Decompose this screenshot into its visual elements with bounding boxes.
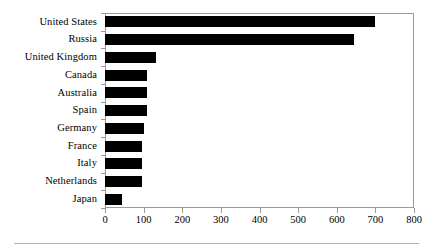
x-axis-tick bbox=[182, 208, 183, 213]
x-axis-tick-label: 500 bbox=[290, 214, 306, 227]
bar bbox=[105, 123, 144, 134]
y-axis-tick-label: Australia bbox=[58, 88, 97, 99]
y-axis-tick-row: United Kingdom bbox=[0, 48, 101, 66]
y-axis-tick-label: Canada bbox=[65, 70, 97, 81]
bar-slot bbox=[105, 48, 414, 66]
y-axis-tick-label: Netherlands bbox=[45, 176, 97, 187]
bar-chart-figure: United States Russia United Kingdom Cana… bbox=[0, 0, 433, 250]
bar bbox=[105, 87, 147, 98]
y-axis-tick-row: United States bbox=[0, 13, 101, 31]
y-axis-tick-label: Italy bbox=[77, 158, 97, 169]
y-axis-tick-label: Japan bbox=[73, 194, 97, 205]
x-axis-tick-label: 200 bbox=[174, 214, 190, 227]
bar bbox=[105, 141, 142, 152]
bar-slot bbox=[105, 137, 414, 155]
bar-slot bbox=[105, 13, 414, 31]
y-axis-tick-label: France bbox=[68, 141, 97, 152]
y-axis-tick-label: Spain bbox=[73, 105, 97, 116]
x-axis-tick-label: 300 bbox=[213, 214, 229, 227]
bar bbox=[105, 176, 142, 187]
x-axis-tick bbox=[221, 208, 222, 213]
bar bbox=[105, 16, 375, 27]
bar bbox=[105, 70, 147, 81]
y-axis-tick-label: Russia bbox=[68, 34, 97, 45]
x-axis-tick-label: 800 bbox=[406, 214, 422, 227]
x-axis-tick-label: 100 bbox=[136, 214, 152, 227]
bar bbox=[105, 194, 122, 205]
y-axis-tick-row: Japan bbox=[0, 190, 101, 208]
x-axis-tick bbox=[414, 208, 415, 213]
bar-slot bbox=[105, 102, 414, 120]
x-axis-tick bbox=[260, 208, 261, 213]
y-axis-tick-row: Germany bbox=[0, 119, 101, 137]
bar bbox=[105, 158, 142, 169]
bar-slot bbox=[105, 31, 414, 49]
bar-slot bbox=[105, 84, 414, 102]
x-axis-tick bbox=[105, 208, 106, 213]
x-axis-tick-label: 700 bbox=[368, 214, 384, 227]
y-axis-tick-row: Canada bbox=[0, 66, 101, 84]
y-axis-tick-label: United Kingdom bbox=[25, 52, 97, 63]
bar-slot bbox=[105, 155, 414, 173]
bar-slot bbox=[105, 119, 414, 137]
y-axis-tick-row: Italy bbox=[0, 155, 101, 173]
x-axis-tick-labels: 0100200300400500600700800 bbox=[105, 214, 414, 230]
y-axis-tick-row: Russia bbox=[0, 31, 101, 49]
bar bbox=[105, 34, 354, 45]
footer-divider bbox=[14, 243, 419, 244]
y-axis-tick-row: Netherlands bbox=[0, 173, 101, 191]
bar-slot bbox=[105, 173, 414, 191]
x-axis-tick-label: 0 bbox=[102, 214, 107, 227]
y-axis-tick-row: Australia bbox=[0, 84, 101, 102]
y-axis-tick-row: Spain bbox=[0, 102, 101, 120]
bars-layer bbox=[105, 13, 414, 208]
x-axis-tick bbox=[144, 208, 145, 213]
y-axis-tick-label: Germany bbox=[57, 123, 97, 134]
x-axis-tick bbox=[298, 208, 299, 213]
x-axis-tick bbox=[375, 208, 376, 213]
bar bbox=[105, 105, 147, 116]
y-axis-tick-row: France bbox=[0, 137, 101, 155]
y-axis-category-labels: United States Russia United Kingdom Cana… bbox=[0, 13, 101, 208]
bar-slot bbox=[105, 190, 414, 208]
bar bbox=[105, 52, 156, 63]
x-axis-tick-label: 600 bbox=[329, 214, 345, 227]
x-axis-tick-marks bbox=[105, 208, 414, 213]
y-axis-tick-label: United States bbox=[39, 17, 97, 28]
x-axis-tick bbox=[337, 208, 338, 213]
bar-slot bbox=[105, 66, 414, 84]
x-axis-tick-label: 400 bbox=[252, 214, 268, 227]
